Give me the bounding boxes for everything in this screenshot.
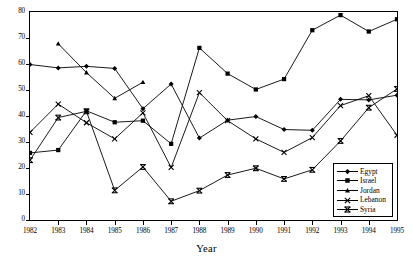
data-point-diamond xyxy=(345,169,350,174)
data-point-triangle xyxy=(56,41,61,45)
x-tick-mark xyxy=(86,221,87,225)
data-point-square xyxy=(225,71,229,75)
data-point-star xyxy=(168,199,174,204)
data-point-square xyxy=(367,29,371,33)
x-tick-mark xyxy=(58,221,59,225)
x-tick-mark xyxy=(143,221,144,225)
data-point-star xyxy=(394,86,397,91)
data-point-star xyxy=(197,188,203,193)
x-tick-mark xyxy=(228,221,229,225)
data-point-star xyxy=(338,138,344,143)
data-point-square xyxy=(56,148,60,152)
legend-item-israel[interactable]: Israel xyxy=(337,176,389,186)
data-point-star xyxy=(112,188,118,193)
x-tick-mark xyxy=(199,221,200,225)
series-jordan xyxy=(56,41,145,100)
data-point-triangle xyxy=(141,80,146,84)
x-tick-mark xyxy=(256,221,257,225)
legend-item-jordan[interactable]: Jordan xyxy=(337,186,389,196)
legend-item-egypt[interactable]: Egypt xyxy=(337,167,389,177)
data-point-square xyxy=(345,179,349,183)
y-tick-label: 80 xyxy=(1,8,25,15)
data-point-star xyxy=(344,207,350,212)
y-tick-label: 30 xyxy=(1,138,25,145)
data-point-x xyxy=(310,135,315,140)
data-point-x xyxy=(395,133,398,138)
data-point-square xyxy=(141,119,145,123)
legend-label: Lebanon xyxy=(358,196,386,203)
y-tick-label: 0 xyxy=(1,216,25,223)
data-point-diamond xyxy=(56,65,61,70)
data-point-diamond xyxy=(282,127,287,132)
data-point-x xyxy=(169,165,174,170)
data-point-x xyxy=(282,150,287,155)
legend-item-lebanon[interactable]: Lebanon xyxy=(337,195,389,205)
legend-label: Jordan xyxy=(358,187,380,194)
data-point-x xyxy=(56,102,61,107)
legend-marker-x-icon xyxy=(337,196,358,205)
x-tick-mark xyxy=(171,221,172,225)
legend-marker-diamond-icon xyxy=(337,167,358,176)
series-lebanon xyxy=(30,90,397,170)
y-tick-label: 70 xyxy=(1,34,25,41)
data-point-x xyxy=(253,136,258,141)
x-tick-label: 1995 xyxy=(380,228,413,235)
x-tick-mark xyxy=(341,221,342,225)
legend-marker-square-icon xyxy=(337,176,358,185)
data-point-diamond xyxy=(395,93,398,98)
legend-item-syria[interactable]: Syria xyxy=(337,205,389,215)
data-point-square xyxy=(395,17,397,21)
legend-label: Syria xyxy=(358,206,376,213)
data-point-square xyxy=(310,28,314,32)
y-tick-label: 60 xyxy=(1,60,25,67)
data-point-star xyxy=(30,158,33,163)
data-point-square xyxy=(282,77,286,81)
data-point-square xyxy=(197,46,201,50)
data-point-diamond xyxy=(30,62,33,67)
data-point-star xyxy=(253,166,259,171)
x-tick-mark xyxy=(312,221,313,225)
data-point-x xyxy=(338,103,343,108)
legend-label: Israel xyxy=(358,177,376,184)
data-point-diamond xyxy=(197,136,202,141)
data-point-x xyxy=(112,136,117,141)
y-tick-label: 40 xyxy=(1,112,25,119)
y-tick-label: 10 xyxy=(1,190,25,197)
data-point-square xyxy=(338,13,342,17)
legend-label: Egypt xyxy=(358,168,378,175)
data-point-star xyxy=(281,176,287,181)
data-point-diamond xyxy=(84,64,89,69)
data-point-square xyxy=(113,120,117,124)
series-israel xyxy=(30,13,397,155)
data-point-diamond xyxy=(253,114,258,119)
data-point-star xyxy=(140,164,146,169)
data-point-x xyxy=(345,197,350,202)
chart-figure: 01020304050607080 1982198319841985198619… xyxy=(0,0,413,263)
data-point-triangle xyxy=(345,188,350,193)
x-tick-mark xyxy=(369,221,370,225)
legend-marker-triangle-icon xyxy=(337,186,358,195)
y-tick-label: 50 xyxy=(1,86,25,93)
data-point-x xyxy=(197,90,202,95)
data-point-star xyxy=(309,167,315,172)
data-point-x xyxy=(84,120,89,125)
data-point-square xyxy=(169,142,173,146)
data-point-x xyxy=(30,130,33,135)
data-point-star xyxy=(225,173,231,178)
data-point-star xyxy=(366,105,372,110)
x-axis-label: Year xyxy=(0,243,413,254)
y-tick-label: 20 xyxy=(1,164,25,171)
data-point-square xyxy=(30,151,32,155)
x-tick-mark xyxy=(115,221,116,225)
chart-legend: EgyptIsraelJordanLebanonSyria xyxy=(333,163,393,217)
legend-marker-star-icon xyxy=(337,205,358,214)
data-point-square xyxy=(254,87,258,91)
x-tick-mark xyxy=(284,221,285,225)
